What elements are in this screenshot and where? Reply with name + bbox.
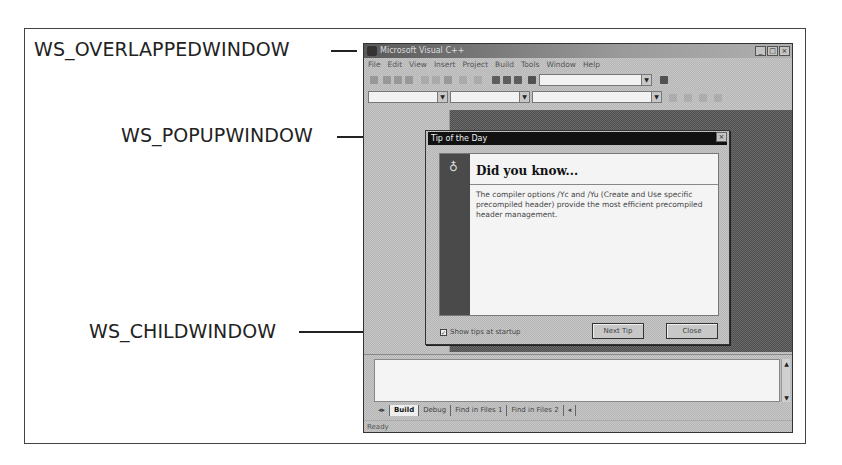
menu-insert[interactable]: Insert <box>434 58 456 72</box>
scroll-down-icon[interactable]: ▼ <box>782 393 791 402</box>
close-button[interactable]: Close <box>666 323 718 339</box>
cut-icon[interactable] <box>421 76 429 84</box>
window-controls: _ □ × <box>755 46 790 56</box>
output-icon[interactable] <box>503 76 511 84</box>
label-child-window: WS_CHILDWINDOW <box>89 320 276 342</box>
wizard-action-icon[interactable] <box>669 94 677 102</box>
tab-find-in-files-1[interactable]: Find in Files 1 <box>451 405 507 416</box>
paste-icon[interactable] <box>444 76 452 84</box>
maximize-button[interactable]: □ <box>767 46 778 56</box>
wizard-action-icon[interactable] <box>684 94 692 102</box>
show-tips-checkbox-row[interactable]: ✓ Show tips at startup <box>440 328 521 336</box>
save-all-icon[interactable] <box>405 76 413 84</box>
tip-of-the-day-dialog: Tip of the Day × ♁ Did you know... The c… <box>425 130 730 345</box>
standard-toolbar: ▼ <box>364 72 792 88</box>
menu-help[interactable]: Help <box>583 58 600 72</box>
menu-file[interactable]: File <box>368 58 381 72</box>
wizard-action-icon[interactable] <box>714 94 722 102</box>
chevron-down-icon[interactable]: ▼ <box>651 92 661 102</box>
output-pane <box>374 359 780 402</box>
menu-build[interactable]: Build <box>495 58 514 72</box>
tab-hscroll[interactable]: ◂ <box>564 405 577 416</box>
output-tabs: ◂▸ Build Debug Find in Files 1 Find in F… <box>374 404 576 416</box>
menu-view[interactable]: View <box>409 58 427 72</box>
find-icon[interactable] <box>660 76 668 84</box>
chevron-down-icon[interactable]: ▼ <box>641 75 651 85</box>
wizard-bar: ▼ ▼ ▼ <box>364 88 792 106</box>
app-icon <box>367 46 377 56</box>
workspace-icon[interactable] <box>492 76 500 84</box>
show-tips-checkbox[interactable]: ✓ <box>440 329 447 336</box>
tip-panel: ♁ Did you know... The compiler options /… <box>439 153 719 316</box>
filter-combo[interactable]: ▼ <box>450 91 530 103</box>
tab-scroll-arrows[interactable]: ◂▸ <box>374 405 390 416</box>
tip-strip: ♁ <box>440 154 470 315</box>
find-combo[interactable]: ▼ <box>539 74 652 86</box>
label-popup-window: WS_POPUPWINDOW <box>121 124 313 146</box>
members-combo[interactable]: ▼ <box>532 91 662 103</box>
tip-heading: Did you know... <box>476 164 578 178</box>
wizard-action-icon[interactable] <box>699 94 707 102</box>
save-icon[interactable] <box>394 76 402 84</box>
undo-icon[interactable] <box>459 76 467 84</box>
tip-text: The compiler options /Yc and /Yu (Create… <box>476 190 710 220</box>
new-icon[interactable] <box>370 76 378 84</box>
menu-edit[interactable]: Edit <box>388 58 403 72</box>
output-window: ▲ ▼ ◂▸ Build Debug Find in Files 1 Find … <box>364 354 792 420</box>
copy-icon[interactable] <box>432 76 440 84</box>
close-button[interactable]: × <box>779 46 790 56</box>
scroll-up-icon[interactable]: ▲ <box>782 359 791 368</box>
label-overlapped-window: WS_OVERLAPPEDWINDOW <box>34 38 290 60</box>
dialog-title: Tip of the Day <box>428 132 727 145</box>
chevron-down-icon[interactable]: ▼ <box>437 92 447 102</box>
class-combo[interactable]: ▼ <box>368 91 448 103</box>
output-scrollbar[interactable]: ▲ ▼ <box>781 359 790 402</box>
tab-debug[interactable]: Debug <box>419 405 451 416</box>
lightbulb-icon: ♁ <box>449 160 458 174</box>
windows-icon[interactable] <box>514 76 522 84</box>
next-tip-button[interactable]: Next Tip <box>592 323 644 339</box>
minimize-button[interactable]: _ <box>755 46 766 56</box>
tab-find-in-files-2[interactable]: Find in Files 2 <box>507 405 563 416</box>
leader-overlapped <box>331 50 357 52</box>
menu-window[interactable]: Window <box>546 58 576 72</box>
redo-icon[interactable] <box>474 76 482 84</box>
menu-project[interactable]: Project <box>462 58 488 72</box>
app-titlebar: Microsoft Visual C++ _ □ × <box>364 44 792 58</box>
show-tips-label: Show tips at startup <box>450 328 521 336</box>
status-bar: Ready <box>364 420 792 432</box>
menu-tools[interactable]: Tools <box>521 58 539 72</box>
chevron-down-icon[interactable]: ▼ <box>519 92 529 102</box>
dialog-close-button[interactable]: × <box>716 132 727 142</box>
app-title: Microsoft Visual C++ <box>380 46 464 55</box>
find-in-files-icon[interactable] <box>528 76 536 84</box>
open-icon[interactable] <box>383 76 391 84</box>
tab-build[interactable]: Build <box>390 405 419 416</box>
menu-bar: File Edit View Insert Project Build Tool… <box>364 58 792 72</box>
divider <box>470 184 718 185</box>
